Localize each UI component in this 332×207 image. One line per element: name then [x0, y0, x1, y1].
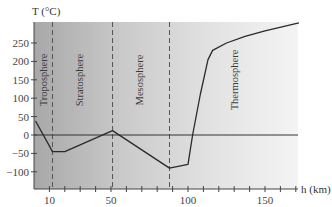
- y-tick-label: 150: [13, 74, 30, 86]
- x-tick-label: 100: [180, 194, 197, 206]
- y-tick-label: −100: [6, 166, 29, 178]
- atmosphere-temperature-chart: TroposphereStratosphereMesosphereThermos…: [0, 0, 332, 207]
- layer-label-mesosphere: Mesosphere: [134, 54, 145, 105]
- y-tick-label: 200: [13, 55, 30, 67]
- layer-label-stratosphere: Stratosphere: [74, 53, 85, 106]
- layer-label-thermosphere: Thermosphere: [229, 49, 240, 110]
- y-axis-ticks: 250200150100500−50−100: [6, 37, 37, 178]
- layer-label-troposphere: Troposphere: [38, 53, 49, 106]
- x-tick-label: 150: [257, 194, 274, 206]
- x-tick-label: 50: [106, 194, 118, 206]
- y-tick-label: 0: [24, 129, 30, 141]
- y-axis-title: T (°C): [32, 5, 61, 18]
- x-tick-label: 10: [44, 194, 56, 206]
- x-axis-title: h (km): [301, 183, 331, 196]
- y-tick-label: 50: [18, 111, 30, 123]
- y-tick-label: 100: [13, 92, 30, 104]
- y-tick-label: 250: [13, 37, 30, 49]
- y-tick-label: −50: [12, 147, 30, 159]
